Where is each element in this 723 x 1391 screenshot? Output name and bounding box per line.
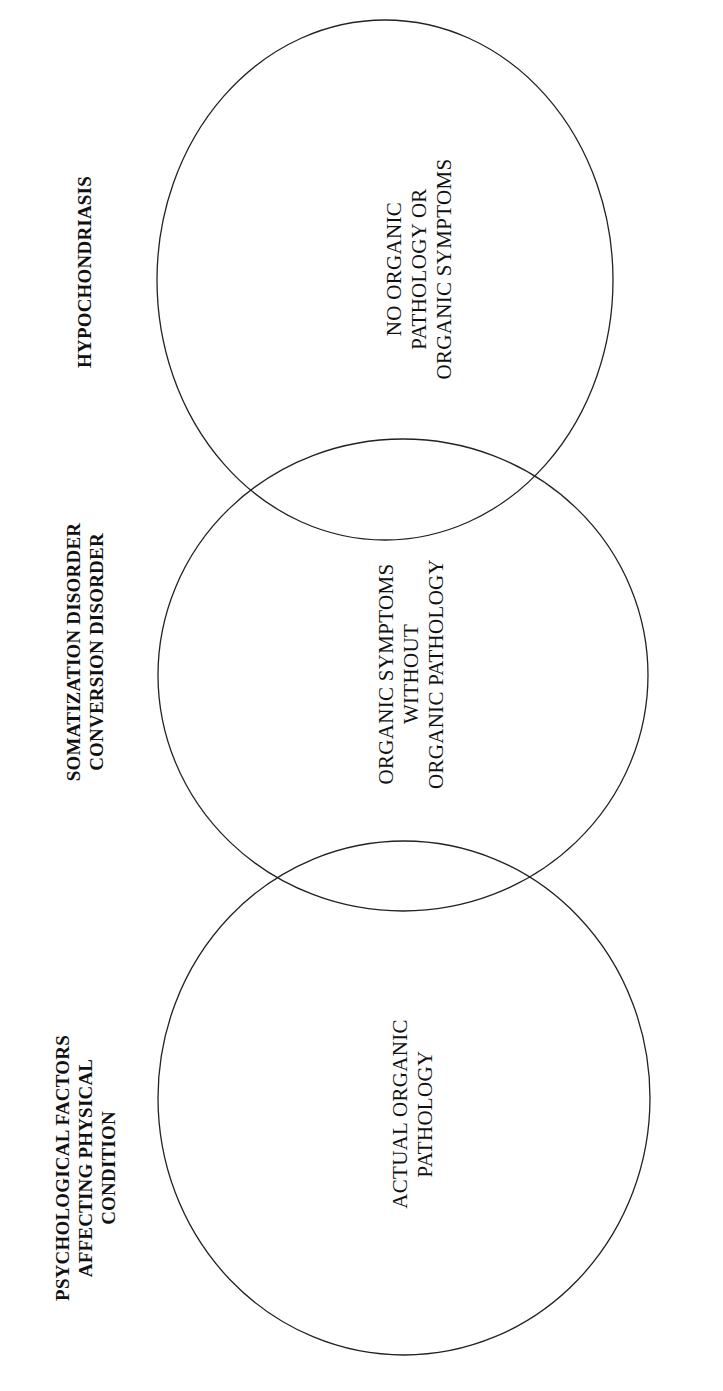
label-no-organic-pathology-or-symptoms: NO ORGANIC PATHOLOGY OR ORGANIC SYMPTOMS (382, 159, 457, 380)
label-line: PATHOLOGY (413, 1019, 438, 1209)
label-line: PATHOLOGY OR (407, 159, 432, 380)
heading-line: CONVERSION DISORDER (85, 523, 108, 781)
heading-line: PSYCHOLOGICAL FACTORS (51, 1035, 74, 1301)
label-line: ORGANIC PATHOLOGY (424, 559, 449, 789)
label-line: ACTUAL ORGANIC (388, 1019, 413, 1209)
label-line: ORGANIC SYMPTOMS (374, 559, 399, 789)
label-actual-organic-pathology: ACTUAL ORGANIC PATHOLOGY (388, 1019, 438, 1209)
heading-line: HYPOCHONDRIASIS (73, 176, 96, 368)
heading-hypochondriasis: HYPOCHONDRIASIS (73, 176, 96, 368)
heading-psychological-factors: PSYCHOLOGICAL FACTORS AFFECTING PHYSICAL… (51, 1035, 120, 1301)
heading-line: SOMATIZATION DISORDER (62, 523, 85, 781)
label-line: ORGANIC SYMPTOMS (432, 159, 457, 380)
heading-somatization-conversion: SOMATIZATION DISORDER CONVERSION DISORDE… (62, 523, 108, 781)
heading-line: AFFECTING PHYSICAL (74, 1035, 97, 1301)
label-line: WITHOUT (399, 559, 424, 789)
heading-line: CONDITION (97, 1035, 120, 1301)
label-line: NO ORGANIC (382, 159, 407, 380)
label-organic-symptoms-without-pathology: ORGANIC SYMPTOMS WITHOUT ORGANIC PATHOLO… (374, 559, 449, 789)
